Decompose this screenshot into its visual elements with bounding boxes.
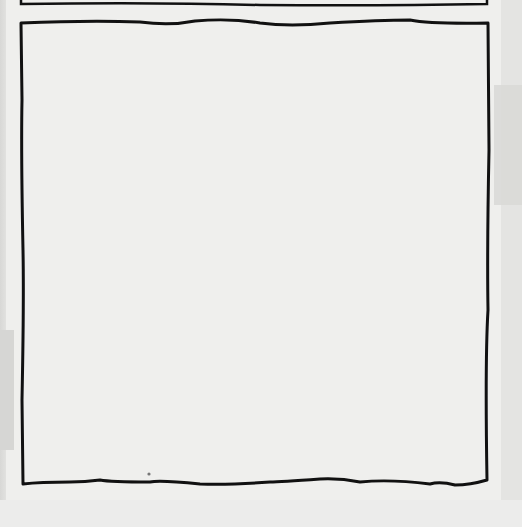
ink-speck	[147, 472, 150, 475]
panel-borders	[0, 0, 522, 527]
top-panel-border	[21, 0, 487, 5]
main-panel-border	[21, 20, 489, 485]
